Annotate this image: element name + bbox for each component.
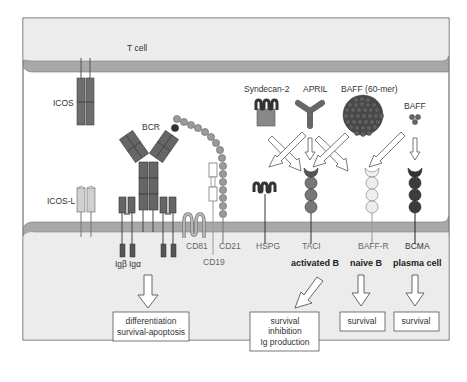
icos-l-label: ICOS-L <box>47 196 76 206</box>
baffr-label: BAFF-R <box>358 241 389 251</box>
naive-b-label: naive B <box>350 258 383 268</box>
icos-label: ICOS <box>53 98 74 108</box>
cd19-label: CD19 <box>203 257 225 267</box>
bcma-label: BCMA <box>405 241 430 251</box>
hspg-label: HSPG <box>256 241 280 251</box>
taci-outcome-line1: survival <box>271 316 300 326</box>
baffr-outcome-text: survival <box>348 316 377 326</box>
bcr-outcome-line1: differentiation <box>126 316 177 326</box>
plasma-cell-label: plasma cell <box>393 258 442 268</box>
activated-b-label: activated B <box>291 258 340 268</box>
bcma-outcome-text: survival <box>402 316 431 326</box>
ig-beta-label: Igβ <box>115 259 127 269</box>
syndecan2-label: Syndecan-2 <box>244 84 290 94</box>
april-label: APRIL <box>303 84 328 94</box>
baff60-label: BAFF (60-mer) <box>341 84 398 94</box>
t-cell-cytoplasm <box>24 19 449 61</box>
bcr-label: BCR <box>142 122 160 132</box>
cd81-label: CD81 <box>186 241 208 251</box>
ig-alpha-label: Igα <box>129 259 141 269</box>
taci-outcome-line2: inhibition <box>268 326 302 336</box>
baff-label: BAFF <box>404 101 426 111</box>
bcr-outcome-line2: survival-apoptosis <box>117 327 185 337</box>
diagram-canvas: T cell ICOS ICOS-L <box>0 0 467 382</box>
cd21-label: CD21 <box>219 241 241 251</box>
taci-label: TACI <box>302 241 321 251</box>
taci-outcome-line3: Ig production <box>260 337 309 347</box>
t-cell-label: T cell <box>127 43 147 53</box>
